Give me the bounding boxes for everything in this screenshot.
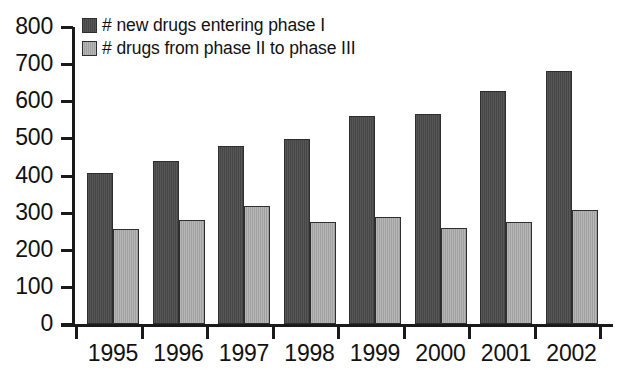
bar [218,146,244,324]
plot-area [75,27,613,324]
bar [546,71,572,324]
x-axis-tick-mark [599,327,602,339]
bar [153,161,179,324]
y-axis-tick-label: 600 [0,89,53,112]
bar [572,210,598,324]
y-axis-tick-label: 100 [0,275,53,298]
x-axis-tick-mark [337,327,340,339]
x-axis-tick-mark [141,327,144,339]
bar-chart: 8007006005004003002001000 19951996199719… [0,0,619,380]
y-axis-labels: 8007006005004003002001000 [0,0,53,380]
bar [506,222,532,324]
y-axis-tick-mark [61,249,73,252]
bar [87,173,113,324]
y-axis-tick-mark [61,137,73,140]
y-axis-tick-mark [61,63,73,66]
legend-swatch-icon [82,18,97,33]
bar [480,91,506,324]
y-axis-tick-mark [61,26,73,29]
x-axis-tick-label: 2002 [532,341,612,366]
legend-swatch-icon [82,41,97,56]
legend-item: # drugs from phase II to phase III [82,37,355,59]
bar [349,116,375,324]
x-axis-tick-mark [468,327,471,339]
legend-label: # drugs from phase II to phase III [102,39,355,58]
chart-legend: # new drugs entering phase I# drugs from… [82,14,355,60]
bar [113,229,139,324]
bar-group [546,27,598,324]
y-axis-tick-mark [61,100,73,103]
bar [284,139,310,324]
x-axis-tick-mark [206,327,209,339]
y-axis-tick-label: 400 [0,164,53,187]
bar-group [153,27,205,324]
bar-group [480,27,532,324]
y-axis-tick-mark [61,286,73,289]
bar [441,228,467,324]
x-axis-tick-mark [75,327,78,339]
bar-group [349,27,401,324]
legend-item: # new drugs entering phase I [82,14,355,36]
y-axis-tick-label: 500 [0,126,53,149]
y-axis-tick-label: 700 [0,52,53,75]
bar-group [218,27,270,324]
x-axis-tick-mark [403,327,406,339]
x-axis-tick-mark [534,327,537,339]
bar-group [87,27,139,324]
bar [310,222,336,324]
bar [244,206,270,324]
bar [415,114,441,324]
legend-label: # new drugs entering phase I [102,16,325,35]
bar-group [284,27,336,324]
bar [179,220,205,324]
bar-group [415,27,467,324]
x-axis-tick-mark [272,327,275,339]
y-axis-tick-mark [61,175,73,178]
y-axis-tick-label: 800 [0,15,53,38]
y-axis-tick-label: 200 [0,238,53,261]
y-axis-tick-mark [61,212,73,215]
bar [375,217,401,324]
y-axis-tick-label: 0 [0,312,53,335]
y-axis-tick-label: 300 [0,201,53,224]
